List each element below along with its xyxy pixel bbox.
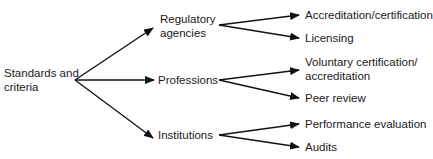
leaf-peer-review: Peer review: [305, 91, 366, 105]
leaf-performance-evaluation: Performance evaluation: [305, 117, 426, 131]
root-node-label: Standards and criteria: [4, 66, 79, 94]
leaf-voluntary-certification: Voluntary certification/ accreditation: [305, 55, 418, 83]
arrow-regulatory-to-accreditation: [219, 15, 299, 25]
branch-institutions: Institutions: [158, 128, 213, 142]
branch-professions: Professions: [158, 73, 218, 87]
arrow-root-to-institutions: [75, 80, 153, 138]
arrow-institutions-to-performance: [219, 124, 299, 135]
arrow-professions-to-voluntary: [219, 70, 299, 80]
leaf-licensing: Licensing: [305, 31, 354, 45]
arrow-professions-to-peer-review: [219, 80, 299, 98]
leaf-audits: Audits: [305, 140, 337, 154]
arrow-regulatory-to-licensing: [219, 25, 299, 38]
arrow-root-to-regulatory: [75, 28, 153, 80]
leaf-accreditation-certification: Accreditation/certification: [305, 8, 433, 22]
arrow-institutions-to-audits: [219, 135, 299, 147]
branch-regulatory-agencies: Regulatory agencies: [160, 12, 216, 40]
